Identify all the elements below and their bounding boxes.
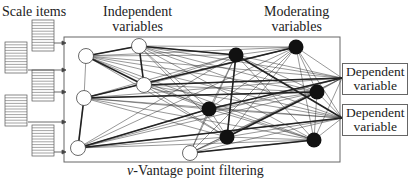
moderating-node xyxy=(220,130,235,145)
dependent-variable-box-2: Dependentvariable xyxy=(342,104,408,136)
filter-rest: -Vantage point filtering xyxy=(133,163,264,178)
dep1-line2: variable xyxy=(354,78,397,93)
moderating-node xyxy=(307,133,322,148)
moderating-node xyxy=(202,102,217,117)
moderating-node xyxy=(310,85,325,100)
independent-node xyxy=(183,146,198,161)
scale-item-stack xyxy=(32,125,54,156)
dep2-line2: variable xyxy=(354,119,397,134)
independent-node xyxy=(77,91,92,106)
scale-item-stack xyxy=(32,70,54,101)
scale-item-stack xyxy=(32,20,54,51)
moderating-node xyxy=(289,40,304,55)
independent-node xyxy=(132,39,147,54)
dep1-line1: Dependent xyxy=(346,64,404,79)
dependent-variable-box-1: Dependentvariable xyxy=(342,63,408,95)
independent-node xyxy=(79,49,94,64)
filter-label: v-Vantage point filtering xyxy=(127,163,264,179)
dep2-line1: Dependent xyxy=(346,105,404,120)
independent-node xyxy=(71,141,86,156)
scale-item-stack xyxy=(5,95,27,126)
moderating-node xyxy=(229,48,244,63)
scale-item-stack xyxy=(5,42,27,73)
independent-node xyxy=(137,78,152,93)
